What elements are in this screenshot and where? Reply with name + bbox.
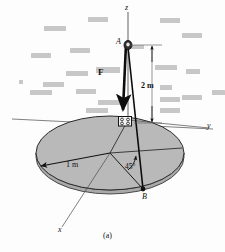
angle-label-45: 45° — [125, 163, 136, 171]
background-text-block — [88, 17, 108, 22]
bracket-block — [119, 117, 132, 127]
background-text-block — [66, 71, 88, 76]
pulley-bore — [126, 43, 129, 47]
background-text-block — [98, 100, 120, 105]
background-text-block — [160, 85, 172, 90]
axis-label-y: y — [207, 122, 211, 130]
force-label-f: F — [98, 68, 104, 77]
background-text-block — [182, 33, 202, 38]
background-text-block — [43, 82, 64, 87]
background-text-block — [160, 97, 180, 102]
axis-label-x: x — [58, 226, 62, 234]
point-label-a: A — [116, 38, 121, 46]
bracket-bolt-4 — [127, 122, 130, 125]
force-vector-F — [123, 44, 126, 110]
background-text-block — [31, 53, 51, 58]
bracket-bolt-1 — [121, 118, 124, 121]
bracket-bolt-2 — [127, 118, 130, 121]
point-label-b: B — [142, 193, 147, 201]
background-text-block — [155, 65, 177, 70]
background-text-block — [44, 26, 66, 31]
mechanics-diagram — [0, 0, 225, 252]
axis-label-z: z — [125, 4, 128, 12]
background-text-block — [182, 95, 202, 100]
background-text-block — [19, 80, 23, 84]
background-text-block — [76, 89, 96, 94]
point-b-marker — [141, 187, 146, 192]
background-text-block — [30, 90, 52, 95]
background-text-block — [86, 108, 108, 113]
background-text-block — [160, 108, 180, 113]
bracket-bolt-3 — [121, 122, 124, 125]
figure-container: z y x A B F 2 m 1 m 45° (a) — [0, 0, 225, 252]
background-text-block — [212, 90, 225, 95]
dimension-label-2m: 2 m — [141, 82, 154, 90]
background-text-block — [70, 48, 90, 53]
background-text-block — [186, 69, 200, 74]
background-text-block — [160, 18, 180, 23]
figure-caption: (a) — [103, 232, 112, 240]
dimension-label-1m: 1 m — [66, 161, 78, 169]
background-page-text — [19, 17, 225, 113]
